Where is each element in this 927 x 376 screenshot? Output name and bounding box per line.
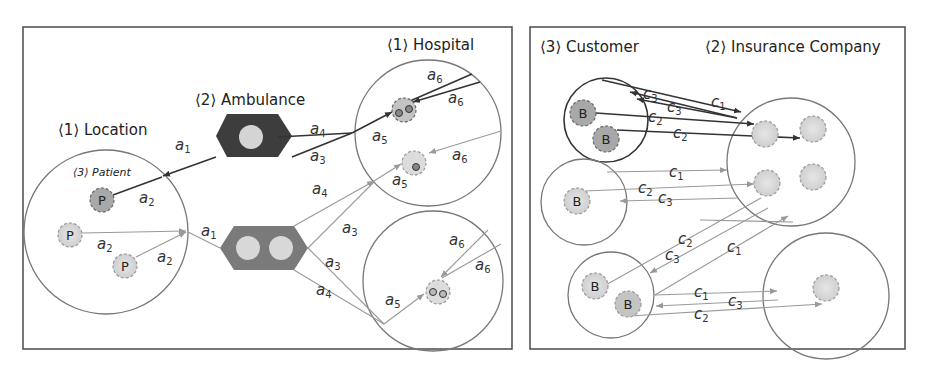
customer-node-3[interactable]: B — [564, 188, 590, 214]
insurance-node-3[interactable] — [754, 170, 780, 196]
ambulance-light[interactable] — [220, 226, 308, 270]
ambulance-light-slot-2 — [269, 236, 293, 260]
patient-node-1[interactable]: P — [90, 188, 114, 212]
location-title: ⟨1⟩ Location — [58, 121, 147, 139]
svg-text:P: P — [98, 193, 106, 208]
svg-text:B: B — [624, 297, 633, 312]
ambulance-dark-slot — [239, 125, 263, 149]
hospital-title: ⟨1⟩ Hospital — [387, 36, 474, 54]
hospital-node-2[interactable] — [402, 151, 426, 175]
patient-title: ⟨3⟩ Patient — [73, 166, 132, 179]
customer-node-2[interactable]: B — [593, 126, 619, 152]
hospital-node-3[interactable] — [426, 280, 450, 304]
svg-text:P: P — [121, 259, 129, 274]
right-panel: ⟨3⟩ Customer ⟨2⟩ Insurance Company B — [530, 27, 905, 359]
svg-text:B: B — [602, 132, 611, 147]
customer-node-4[interactable]: B — [582, 273, 608, 299]
insurance-node-1[interactable] — [752, 121, 778, 147]
customer-title: ⟨3⟩ Customer — [540, 38, 640, 56]
svg-text:B: B — [573, 194, 582, 209]
patient-node-2[interactable]: P — [58, 223, 82, 247]
insurance-node-5[interactable] — [813, 275, 839, 301]
left-panel: ⟨1⟩ Location ⟨2⟩ Ambulance ⟨1⟩ Hospital … — [23, 27, 512, 351]
svg-text:P: P — [66, 228, 74, 243]
customer-node-5[interactable]: B — [615, 291, 641, 317]
diagram-canvas: ⟨1⟩ Location ⟨2⟩ Ambulance ⟨1⟩ Hospital … — [0, 0, 927, 376]
ambulance-light-slot-1 — [236, 236, 260, 260]
customer-node-1[interactable]: B — [570, 100, 596, 126]
insurance-title: ⟨2⟩ Insurance Company — [705, 38, 881, 56]
insurance-node-4[interactable] — [800, 164, 826, 190]
right-panel-frame — [530, 27, 905, 349]
svg-text:B: B — [591, 279, 600, 294]
hospital-node-1[interactable] — [392, 98, 416, 122]
svg-text:B: B — [579, 106, 588, 121]
ambulance-title: ⟨2⟩ Ambulance — [195, 91, 305, 109]
patient-node-3[interactable]: P — [113, 254, 137, 278]
insurance-node-2[interactable] — [800, 116, 826, 142]
